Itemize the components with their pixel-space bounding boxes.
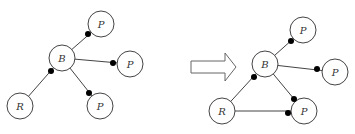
node-label: P [97, 19, 105, 30]
connector-dot-icon [85, 31, 91, 37]
node-label: B [57, 53, 65, 64]
connector-dot-icon [291, 96, 297, 102]
node-p1: P [88, 11, 114, 37]
node-p3: P [291, 98, 317, 124]
connector-dot-icon [251, 74, 257, 80]
connector-dot-icon [48, 68, 54, 74]
node-b: B [252, 51, 278, 77]
node-r: R [209, 98, 235, 124]
node-p1: P [290, 17, 316, 43]
node-b: B [49, 45, 75, 71]
diagram-canvas: BPPPR BPPPR [0, 0, 355, 134]
node-p2: P [117, 51, 143, 77]
connector-dot-icon [110, 60, 116, 66]
node-label: P [96, 101, 104, 112]
node-p2: P [322, 59, 348, 85]
nodes: BPPPR [7, 11, 143, 119]
node-label: P [300, 106, 308, 117]
connector-dot-icon [86, 90, 92, 96]
node-label: R [15, 101, 24, 112]
connector-dot-icon [285, 110, 291, 116]
node-label: P [126, 59, 134, 70]
node-label: P [299, 25, 307, 36]
node-r: R [7, 93, 33, 119]
node-label: P [331, 67, 339, 78]
node-label: R [217, 106, 226, 117]
transition-arrow-icon [191, 53, 236, 81]
node-label: B [260, 59, 268, 70]
before-graph: BPPPR [7, 11, 143, 119]
node-p3: P [87, 93, 113, 119]
connector-dot-icon [288, 38, 294, 44]
connector-dot-icon [314, 66, 320, 72]
